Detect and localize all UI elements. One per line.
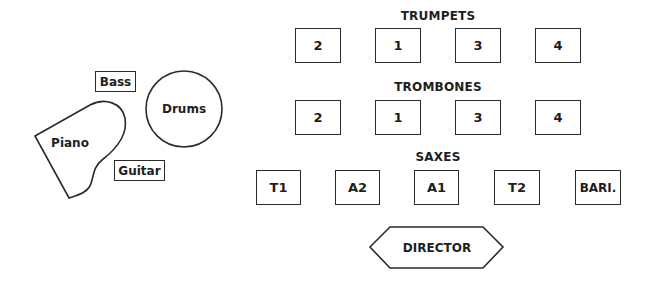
seat-label: 2 [313,110,322,125]
seat-label: T1 [270,180,288,195]
drums-label: Drums [162,102,206,116]
trombone-seat: 3 [455,100,501,135]
seat-label: 2 [313,38,322,53]
seat-label: A1 [427,180,446,195]
seat-label: A2 [348,180,367,195]
piano-label: Piano [51,136,89,150]
trumpet-seat: 3 [455,28,501,63]
sax-seat: A1 [414,170,459,205]
sax-seat: BARI. [575,170,621,205]
sax-seat: T2 [494,170,540,205]
guitar-box: Guitar [114,160,165,181]
seat-label: BARI. [580,181,617,195]
bass-label: Bass [100,75,132,89]
seat-label: 4 [553,38,562,53]
saxes-heading: SAXES [415,150,460,164]
seat-label: 1 [393,38,402,53]
trumpet-seat: 2 [295,28,341,63]
sax-seat: A2 [335,170,380,205]
seat-label: T2 [508,180,526,195]
trombone-seat: 4 [535,100,581,135]
bass-box: Bass [95,71,136,92]
trombone-seat: 1 [375,100,421,135]
trumpet-seat: 1 [375,28,421,63]
seat-label: 3 [473,38,482,53]
sax-seat: T1 [256,170,301,205]
trumpets-heading: TRUMPETS [401,9,476,23]
seat-label: 1 [393,110,402,125]
guitar-label: Guitar [118,164,160,178]
trumpet-seat: 4 [535,28,581,63]
seat-label: 3 [473,110,482,125]
seat-label: 4 [553,110,562,125]
trombone-seat: 2 [295,100,341,135]
director-label: DIRECTOR [403,241,471,255]
trombones-heading: TROMBONES [394,80,482,94]
